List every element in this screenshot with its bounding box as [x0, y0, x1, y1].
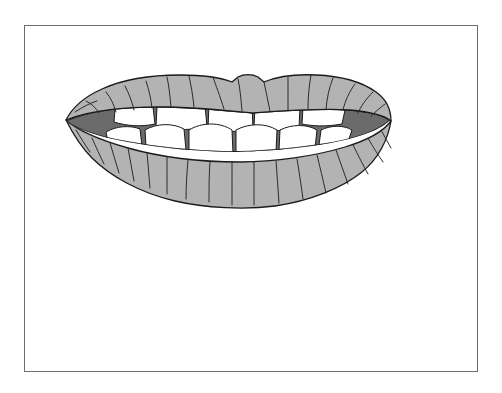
lower-tooth [236, 125, 277, 153]
lower-tooth [189, 124, 233, 153]
lower-tooth [145, 125, 186, 150]
lower-tooth [319, 126, 352, 145]
lips-illustration [0, 0, 502, 393]
upper-tooth [114, 107, 155, 126]
figure-root: Grayscale line drawing of a pair of part… [0, 0, 502, 393]
lower-tooth [279, 126, 317, 151]
